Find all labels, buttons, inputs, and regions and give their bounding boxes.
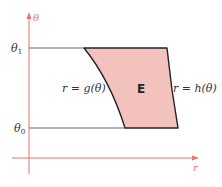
r-axis-label: r: [193, 163, 198, 173]
right-curve-label: r = h(θ): [173, 83, 217, 94]
theta-axis-arrow-icon: [27, 12, 32, 19]
region-label: E: [137, 83, 145, 95]
r-axis-arrow-icon: [192, 156, 199, 161]
theta0-tick-label: θ0: [14, 123, 25, 136]
theta-axis-label: θ: [33, 13, 39, 23]
left-curve-label: r = g(θ): [62, 83, 106, 94]
theta1-tick-label: θ1: [11, 43, 22, 56]
